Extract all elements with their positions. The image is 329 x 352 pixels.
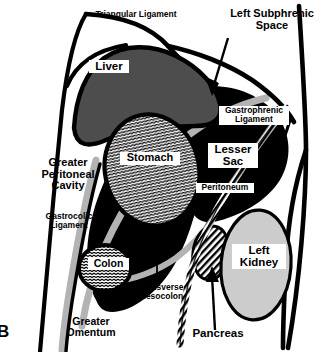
label-liver: Liver	[89, 60, 129, 73]
label-gastrophrenic-ligament: Gastrophrenic Ligament	[219, 106, 289, 125]
label-left-kidney: Left Kidney	[232, 244, 286, 269]
panel-letter: B	[0, 322, 9, 342]
label-gastrocolic-ligament: Gastrocolic Ligament	[38, 212, 100, 230]
label-pancreas: Pancreas	[186, 327, 250, 339]
anatomical-diagram-figure: Triangular Ligament Left Subphrenic Spac…	[0, 0, 329, 352]
label-transverse-mesocolon: Transverse Mesocolon	[129, 283, 193, 301]
label-peritoneum: Peritoneum	[196, 183, 254, 193]
label-stomach: Stomach	[120, 152, 180, 165]
label-triangular-ligament: Triangular Ligament	[80, 10, 192, 19]
label-greater-omentum: Greater Omentum	[60, 316, 122, 338]
label-greater-peritoneal-cavity: Greater Peritoneal Cavity	[29, 157, 107, 192]
label-left-subphrenic-space: Left Subphrenic Space	[222, 8, 322, 31]
label-lesser-sac: Lesser Sac	[208, 143, 258, 168]
label-colon: Colon	[88, 258, 129, 270]
